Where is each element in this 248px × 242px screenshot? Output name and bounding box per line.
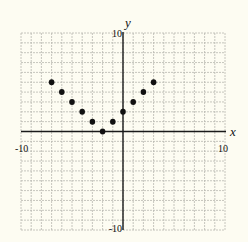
data-point [141, 89, 147, 95]
data-point [59, 89, 65, 95]
y-min-tick-label: -10 [109, 223, 122, 234]
x-axis-label: x [229, 124, 236, 139]
data-point [49, 79, 55, 85]
coordinate-plane: x y -10 10 10 -10 [0, 0, 248, 242]
data-point [130, 99, 136, 105]
data-point [90, 119, 96, 125]
data-point [120, 109, 126, 115]
x-max-tick-label: 10 [218, 143, 228, 154]
data-point [151, 79, 157, 85]
data-point [110, 119, 116, 125]
data-point [100, 129, 106, 135]
y-max-tick-label: 10 [112, 28, 122, 39]
y-axis-label: y [123, 15, 131, 30]
x-min-tick-label: -10 [15, 143, 28, 154]
data-point [79, 109, 85, 115]
data-point [69, 99, 75, 105]
